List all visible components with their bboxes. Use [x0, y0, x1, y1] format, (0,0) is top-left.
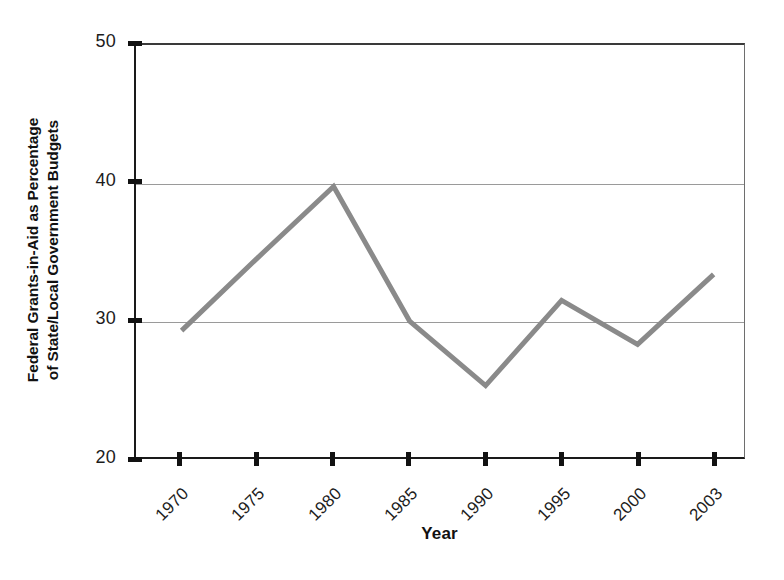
y-axis-title-line-1: Federal Grants-in-Aid as Percentage [23, 118, 43, 382]
y-tick-mark-20 [128, 457, 142, 462]
x-tick-mark-1975 [254, 452, 259, 466]
x-tick-mark-1985 [406, 452, 411, 466]
plot-area [134, 43, 745, 459]
x-axis-title: Year [134, 524, 745, 544]
y-tick-label-20: 20 [72, 447, 116, 468]
y-axis-title-line-2: of State/Local Government Budgets [43, 118, 63, 382]
x-tick-mark-2003 [712, 452, 717, 466]
x-tick-mark-1990 [483, 452, 488, 466]
data-series-line [136, 45, 744, 457]
y-tick-mark-50 [128, 41, 142, 46]
x-tick-mark-1970 [177, 452, 182, 466]
plot-inner [136, 45, 744, 457]
y-tick-label-30: 30 [72, 308, 116, 329]
y-axis-title-text: Federal Grants-in-Aid as Percentage of S… [23, 118, 63, 382]
y-tick-mark-40 [128, 179, 142, 184]
chart-figure: Federal Grants-in-Aid as Percentage of S… [0, 0, 784, 580]
y-tick-label-50: 50 [72, 31, 116, 52]
y-axis-title: Federal Grants-in-Aid as Percentage of S… [0, 0, 86, 500]
y-tick-label-40: 40 [72, 170, 116, 191]
x-tick-mark-1980 [330, 452, 335, 466]
x-tick-mark-2000 [636, 452, 641, 466]
y-tick-mark-30 [128, 318, 142, 323]
x-tick-mark-1995 [559, 452, 564, 466]
